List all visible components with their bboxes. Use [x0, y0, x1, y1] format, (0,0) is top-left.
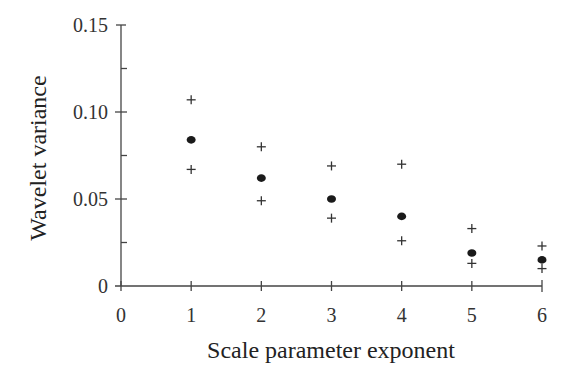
data-points [187, 95, 547, 273]
x-tick-label: 4 [397, 304, 407, 326]
data-point-bound [187, 165, 196, 174]
data-point-estimate [257, 174, 266, 182]
x-tick-label: 6 [537, 304, 547, 326]
data-point-bound [467, 224, 476, 233]
data-point-estimate [538, 256, 547, 264]
x-tick-label: 2 [256, 304, 266, 326]
data-point-bound [397, 236, 406, 245]
scatter-chart: 00.050.100.15 0123456 Scale parameter ex… [0, 0, 577, 384]
data-point-bound [327, 214, 336, 223]
data-point-estimate [187, 136, 196, 144]
x-tick-label: 1 [186, 304, 196, 326]
y-tick-label: 0.15 [73, 14, 108, 36]
y-tick-label: 0 [98, 275, 108, 297]
data-point-bound [538, 264, 547, 273]
y-axis: 00.050.100.15 [73, 14, 127, 297]
data-point-bound [327, 161, 336, 170]
data-point-estimate [467, 249, 476, 257]
data-point-bound [257, 142, 266, 151]
y-tick-label: 0.05 [73, 188, 108, 210]
y-axis-title: Wavelet variance [25, 75, 51, 240]
x-tick-label: 5 [467, 304, 477, 326]
x-axis: 0123456 [115, 280, 547, 326]
y-tick-label: 0.10 [73, 101, 108, 123]
data-point-bound [467, 259, 476, 268]
data-point-estimate [327, 195, 336, 203]
x-axis-title: Scale parameter exponent [207, 337, 455, 363]
data-point-bound [538, 241, 547, 250]
x-tick-label: 0 [116, 304, 126, 326]
data-point-bound [187, 95, 196, 104]
data-point-bound [397, 160, 406, 169]
data-point-estimate [397, 213, 406, 221]
data-point-bound [257, 196, 266, 205]
x-tick-label: 3 [327, 304, 337, 326]
